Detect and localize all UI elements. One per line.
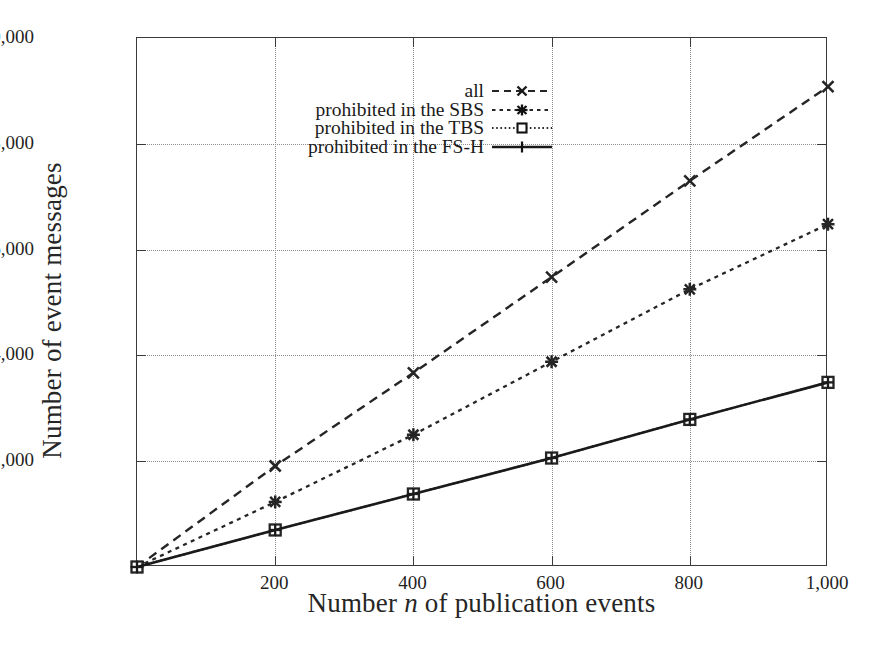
data-point-cross-x: [408, 367, 419, 378]
y-tick-label: 2,000: [0, 449, 34, 471]
legend-swatch-square-icon: [491, 119, 553, 137]
plot-area: all prohibited in the SBS: [136, 37, 827, 566]
y-tick-label: 8,000: [0, 132, 34, 154]
legend-item-all: all: [353, 82, 553, 101]
legend-item-fsh: prohibited in the FS-H: [353, 138, 553, 157]
x-tick-label: 200: [260, 572, 289, 594]
legend-swatch-plus-icon: [491, 138, 553, 156]
data-point-cross-x: [546, 272, 557, 283]
x-tick-label: 400: [398, 572, 427, 594]
y-tick-label: 6,000: [0, 238, 34, 260]
data-point-cross-x: [270, 460, 281, 471]
series-prohibited-in-the-sbs: [131, 218, 835, 574]
x-tick-label: 800: [675, 572, 704, 594]
data-point-star-filled: [545, 355, 558, 368]
y-axis-title: Number of event messages: [37, 101, 68, 521]
data-point-star-filled: [407, 428, 420, 441]
series-prohibited-in-the-fs-h: [131, 376, 834, 573]
data-point-cross-x: [823, 81, 834, 92]
chart-legend: all prohibited in the SBS: [353, 82, 553, 156]
legend-label: prohibited in the FS-H: [308, 138, 491, 157]
legend-label: all: [465, 82, 492, 101]
data-point-star-filled: [683, 283, 696, 296]
data-point-star-filled: [269, 495, 282, 508]
y-tick-label: 4,000: [0, 343, 34, 365]
chart-figure: Number of event messages Number n of pub…: [0, 0, 881, 650]
x-axis-title-part1: Number: [308, 588, 398, 618]
legend-swatch-cross-x-icon: [491, 82, 553, 100]
legend-label: prohibited in the TBS: [315, 119, 491, 138]
data-point-cross-x: [684, 175, 695, 186]
y-tick-label: 10,000: [0, 26, 34, 48]
legend-swatch-star-icon: [491, 101, 553, 119]
legend-item-tbs: prohibited in the TBS: [353, 119, 553, 138]
x-tick-label: 1,000: [806, 572, 849, 594]
data-point-star-filled: [822, 218, 835, 231]
x-tick-label: 600: [536, 572, 565, 594]
x-axis-title: Number n of publication events: [136, 588, 827, 619]
